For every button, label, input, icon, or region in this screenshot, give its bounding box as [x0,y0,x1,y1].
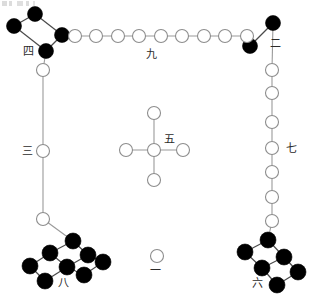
group-nine-numeral-label: 九 [146,49,157,60]
group-six-node[interactable] [237,244,253,260]
group-eight-node[interactable] [59,259,75,275]
group-seven-node[interactable] [266,191,279,204]
group-nine-node[interactable] [69,30,82,43]
connector-layer [43,23,273,241]
group-four-numeral-label: 四 [23,46,34,57]
group-three-node[interactable] [37,64,50,77]
group-eight-node[interactable] [95,254,111,270]
group-four-node[interactable] [7,19,22,34]
group-three-node[interactable] [37,213,50,226]
group-five-numeral-label: 五 [164,134,175,145]
group-nine-node[interactable] [198,30,211,43]
group-eight-node[interactable] [80,247,96,263]
group-seven-node[interactable] [266,166,279,179]
group-one-numeral-label: 一 [150,265,161,276]
group-nine-node[interactable] [112,30,125,43]
group-nine-node[interactable] [241,30,254,43]
group-five-node[interactable] [148,174,161,187]
group-two-numeral-label: 二 [270,38,281,49]
group-six-node[interactable] [254,260,270,276]
group-four-node[interactable] [55,28,70,43]
node-diagram [0,0,309,305]
diagram-canvas: 一二三四五六七八九 [0,0,309,305]
group-four-node[interactable] [28,7,43,22]
group-seven-numeral-label: 七 [286,143,297,154]
group-six-node[interactable] [276,249,292,265]
group-seven-node[interactable] [266,142,279,155]
group-seven-node[interactable] [266,215,279,228]
group-seven-node[interactable] [266,116,279,129]
group-five-node[interactable] [148,144,161,157]
group-nine-node[interactable] [219,30,232,43]
group-nine-node[interactable] [176,30,189,43]
group-eight-node[interactable] [42,245,58,261]
group-eight-node[interactable] [22,258,38,274]
group-five-node[interactable] [148,107,161,120]
group-two-node[interactable] [266,16,281,31]
group-eight-numeral-label: 八 [58,278,69,289]
group-seven-node[interactable] [266,87,279,100]
group-three-numeral-label: 三 [22,146,33,157]
group-eight-node[interactable] [37,273,53,289]
group-three-node[interactable] [37,145,50,158]
group-nine-node[interactable] [155,30,168,43]
group-eight-node[interactable] [76,267,92,283]
group-nine-node[interactable] [133,30,146,43]
group-eight-node[interactable] [65,233,81,249]
group-five-node[interactable] [177,144,190,157]
group-seven-node[interactable] [266,64,279,77]
group-five-node[interactable] [120,144,133,157]
group-six-node[interactable] [260,232,276,248]
group-four-node[interactable] [39,44,54,59]
group-nine-node[interactable] [90,30,103,43]
group-six-numeral-label: 六 [252,278,263,289]
group-six-node[interactable] [269,277,285,293]
group-one-node[interactable] [151,250,164,263]
group-six-node[interactable] [290,264,306,280]
